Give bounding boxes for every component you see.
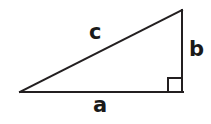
right-angle-marker-icon (168, 78, 182, 92)
side-label-c: c (89, 22, 101, 43)
side-label-a: a (93, 95, 107, 116)
right-triangle-figure: c b a (0, 0, 211, 124)
side-label-b: b (189, 39, 204, 60)
